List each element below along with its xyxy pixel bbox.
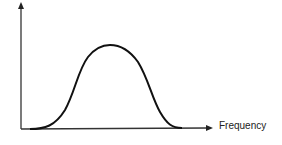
y-axis [18, 2, 24, 129]
x-axis-label: Frequency [219, 120, 266, 131]
x-axis-arrow-icon [206, 125, 213, 131]
y-axis-arrow-icon [18, 2, 24, 9]
bell-curve [30, 45, 182, 129]
